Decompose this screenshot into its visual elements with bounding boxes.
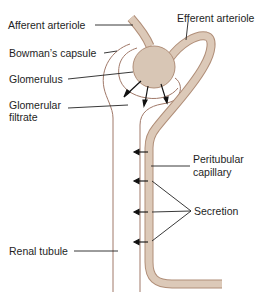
label-renal-tubule: Renal tubule (9, 245, 68, 257)
label-secretion: Secretion (194, 205, 238, 217)
label-glomerular-filtrate-1: Glomerular (9, 99, 61, 111)
label-peritubular-capillary-1: Peritubular (193, 153, 244, 165)
label-afferent-arteriole: Afferent arteriole (8, 19, 85, 31)
renal-tubule-outer-wall (103, 44, 130, 292)
label-peritubular-capillary-2: capillary (193, 166, 232, 178)
label-bowmans-capsule: Bowman’s capsule (9, 47, 96, 59)
label-glomerulus: Glomerulus (9, 73, 63, 85)
label-efferent-arteriole: Efferent arteriole (177, 12, 254, 24)
label-glomerular-filtrate-2: filtrate (9, 111, 38, 123)
glomerulus (133, 46, 175, 88)
